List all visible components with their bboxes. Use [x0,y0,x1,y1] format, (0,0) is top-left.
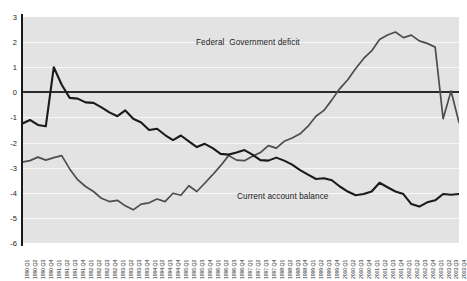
x-tick-label: 1995:Q1 [183,245,189,279]
line-current-account-balance [22,32,459,210]
x-tick-label: 2002:Q1 [406,245,412,279]
series-svg [22,17,459,243]
x-tick-label: 1999:Q2 [318,245,324,279]
x-tick-label: 1991:Q2 [64,245,70,279]
x-tick-label: 2000:Q4 [366,245,372,279]
x-tick-label: 1994:Q1 [152,245,158,279]
x-tick-label: 1996:Q1 [215,245,221,279]
annotation-current-account-balance: Current account balance [237,192,329,201]
x-tick-label: 1993:Q4 [144,245,150,279]
x-tick-label: 2000:Q1 [342,245,348,279]
x-tick-label: 1994:Q3 [167,245,173,279]
x-tick-label: 1990:Q2 [32,245,38,279]
x-tick-label: 1992:Q2 [96,245,102,279]
x-tick-label: 2002:Q4 [430,245,436,279]
x-tick-label: 2003:Q3 [453,245,459,279]
x-tick-label: 1999:Q3 [326,245,332,279]
y-tick-label: 2 [0,38,17,47]
x-tick-label: 1998:Q1 [279,245,285,279]
line-federal-government-deficit [22,67,459,206]
x-tick-label: 1993:Q1 [120,245,126,279]
x-tick-label: 1997:Q3 [263,245,269,279]
x-tick-label: 1997:Q4 [271,245,277,279]
x-tick-label: 1993:Q3 [136,245,142,279]
x-axis-tick-labels: 1990:Q11990:Q21990:Q31990:Q41991:Q11991:… [22,245,459,281]
y-tick-label: 1 [0,63,17,72]
x-tick-label: 1996:Q4 [239,245,245,279]
x-tick-label: 2001:Q2 [382,245,388,279]
x-tick-label: 1998:Q2 [287,245,293,279]
y-tick-label: -1 [0,113,17,122]
y-tick-label: -4 [0,189,17,198]
x-tick-label: 1999:Q1 [310,245,316,279]
x-tick-label: 1991:Q1 [56,245,62,279]
x-tick-label: 2001:Q4 [398,245,404,279]
x-tick-label: 1992:Q4 [112,245,118,279]
y-axis-line [21,14,23,246]
x-tick-label: 1994:Q2 [159,245,165,279]
x-tick-label: 1993:Q2 [128,245,134,279]
x-tick-label: 1992:Q3 [104,245,110,279]
annotation-federal-government-deficit: Federal Government deficit [196,38,300,47]
x-tick-label: 1992:Q1 [88,245,94,279]
x-tick-label: 1998:Q3 [295,245,301,279]
series-layer [22,17,459,243]
x-tick-label: 1990:Q4 [48,245,54,279]
y-tick-label: 0 [0,88,17,97]
y-tick-label: -2 [0,139,17,148]
y-tick-label: 3 [0,13,17,22]
x-tick-label: 1995:Q2 [191,245,197,279]
x-tick-label: 1998:Q4 [302,245,308,279]
x-tick-label: 1996:Q2 [223,245,229,279]
x-tick-label: 1990:Q1 [24,245,30,279]
x-tick-label: 2003:Q2 [446,245,452,279]
y-tick-label: -5 [0,214,17,223]
x-tick-label: 2001:Q1 [374,245,380,279]
plot-area [22,17,459,243]
x-tick-label: 2003:Q4 [461,245,467,279]
x-tick-label: 1997:Q1 [247,245,253,279]
x-tick-label: 1991:Q3 [72,245,78,279]
x-tick-label: 1996:Q3 [231,245,237,279]
x-tick-label: 2002:Q3 [422,245,428,279]
x-tick-label: 2002:Q2 [414,245,420,279]
y-tick-label: -6 [0,239,17,248]
x-tick-label: 1994:Q4 [175,245,181,279]
x-tick-label: 2003:Q1 [438,245,444,279]
x-tick-label: 1990:Q3 [40,245,46,279]
y-tick-label: -3 [0,164,17,173]
x-tick-label: 2001:Q3 [390,245,396,279]
x-tick-label: 2000:Q2 [350,245,356,279]
x-tick-label: 2000:Q3 [358,245,364,279]
x-tick-label: 1997:Q2 [255,245,261,279]
x-tick-label: 1995:Q3 [199,245,205,279]
x-tick-label: 1999:Q4 [334,245,340,279]
x-tick-label: 1995:Q4 [207,245,213,279]
x-tick-label: 1991:Q4 [80,245,86,279]
y-axis-tick-labels: 3210-1-2-3-4-5-6 [0,0,19,281]
